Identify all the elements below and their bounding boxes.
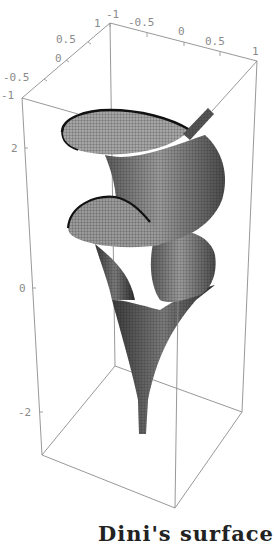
x-tick-label: 1: [252, 45, 259, 58]
box-edge-bottom-front-left: [42, 455, 175, 508]
z-tick-label: 2: [11, 142, 18, 155]
x-tick-label: -0.5: [128, 16, 155, 29]
box-edge-top-front-right: [212, 61, 257, 111]
box-edge-front-vertical: [175, 300, 178, 508]
bounding-box-front: [22, 23, 257, 508]
box-edge-top-front-left: [22, 98, 78, 114]
y-tick-label: -0.5: [3, 71, 30, 84]
box-edge-bottom-front-right: [175, 412, 242, 508]
x-tick-label: -1: [106, 8, 119, 21]
box-edge-left-vertical: [22, 98, 42, 455]
y-tick-label: 0: [55, 52, 62, 65]
x-tick-label: 0: [178, 25, 185, 38]
box-edge-back-bottom-left: [42, 366, 115, 455]
x-axis-labels: -1 -0.5 0 0.5 1: [106, 8, 259, 58]
y-tick-label: 1: [94, 17, 101, 30]
x-tick-label: 0.5: [205, 35, 225, 48]
figure-caption: Dini's surface: [98, 521, 274, 545]
z-axis-labels: 2 0 -2: [11, 142, 31, 419]
z-tick-label: -2: [18, 406, 31, 419]
z-tick-label: 0: [19, 282, 26, 295]
y-tick-label: 0.5: [56, 33, 76, 46]
surface: [62, 108, 225, 434]
y-axis-labels: 1 0.5 0 -0.5 -1: [1, 17, 101, 102]
y-tick-label: -1: [1, 89, 14, 102]
box-edge-back-vertical: [110, 23, 115, 366]
box-edge-right-vertical: [242, 61, 257, 412]
